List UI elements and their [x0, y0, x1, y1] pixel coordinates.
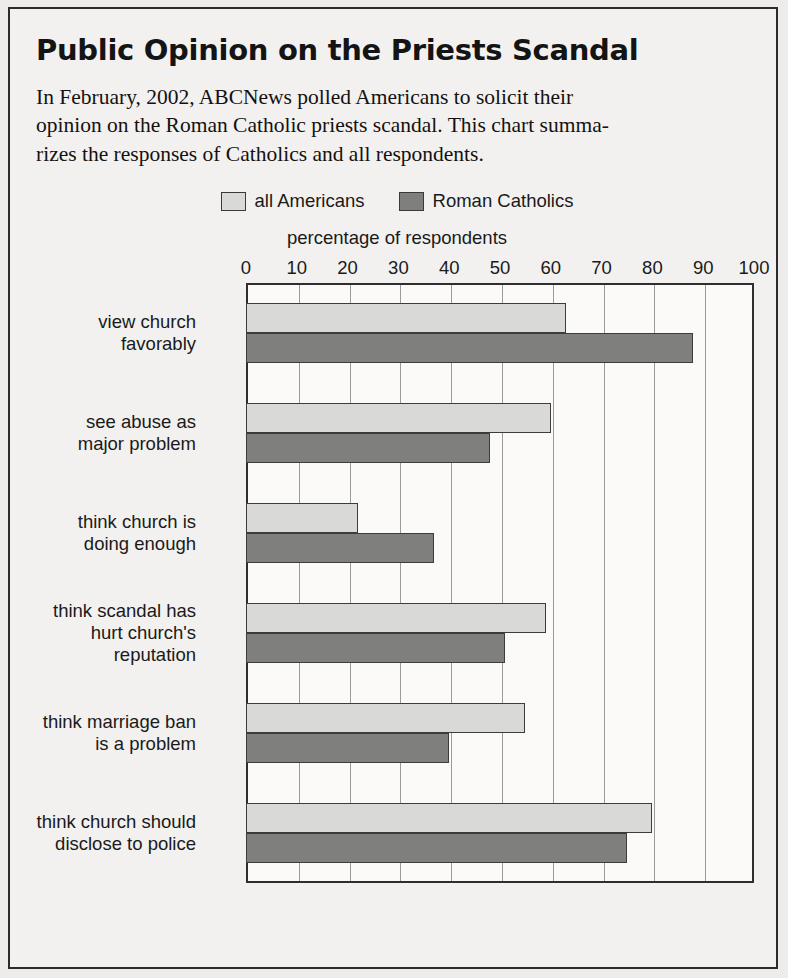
x-tick-0: 0 — [241, 257, 251, 279]
bar-pair — [246, 303, 754, 363]
bar-pair — [246, 403, 754, 463]
category-label-line: hurt church's — [0, 622, 196, 644]
bar-roman-catholics[interactable] — [246, 333, 693, 363]
legend-swatch-roman-catholics — [399, 192, 424, 211]
legend-label-roman-catholics: Roman Catholics — [433, 190, 574, 212]
x-tick-60: 60 — [541, 257, 562, 279]
bar-all-americans[interactable] — [246, 503, 358, 533]
x-tick-90: 90 — [693, 257, 714, 279]
category-label-line: view church — [0, 311, 196, 333]
bar-pair — [246, 703, 754, 763]
bar-group: think church shoulddisclose to police — [32, 803, 762, 863]
x-axis-ticks: 0102030405060708090100 — [246, 257, 754, 281]
page-title: Public Opinion on the Priests Scandal — [36, 33, 762, 67]
bar-all-americans[interactable] — [246, 603, 546, 633]
category-label-line: major problem — [0, 433, 196, 455]
x-axis-label: percentage of respondents — [32, 227, 762, 249]
category-label: think church isdoing enough — [0, 511, 196, 555]
bar-roman-catholics[interactable] — [246, 433, 490, 463]
bar-group: see abuse asmajor problem — [32, 403, 762, 463]
x-tick-20: 20 — [337, 257, 358, 279]
category-label-line: favorably — [0, 333, 196, 355]
description-line-3: rizes the responses of Catholics and all… — [36, 140, 736, 168]
bar-rows: view churchfavorablysee abuse asmajor pr… — [32, 283, 762, 883]
legend-label-all-americans: all Americans — [255, 190, 365, 212]
poster-frame: Public Opinion on the Priests Scandal In… — [8, 7, 778, 969]
x-tick-30: 30 — [388, 257, 409, 279]
x-tick-70: 70 — [591, 257, 612, 279]
bar-chart: 0102030405060708090100 view churchfavora… — [32, 257, 762, 897]
bar-pair — [246, 503, 754, 563]
category-label-line: think scandal has — [0, 600, 196, 622]
category-label-line: think church is — [0, 511, 196, 533]
description-paragraph: In February, 2002, ABCNews polled Americ… — [36, 83, 736, 168]
x-tick-10: 10 — [287, 257, 308, 279]
poster-inner: Public Opinion on the Priests Scandal In… — [32, 23, 762, 957]
bar-all-americans[interactable] — [246, 403, 551, 433]
bar-roman-catholics[interactable] — [246, 633, 505, 663]
description-line-1: In February, 2002, ABCNews polled Americ… — [36, 83, 736, 111]
x-tick-80: 80 — [642, 257, 663, 279]
bar-all-americans[interactable] — [246, 703, 525, 733]
chart-legend: all Americans Roman Catholics — [32, 190, 762, 212]
bar-roman-catholics[interactable] — [246, 533, 434, 563]
category-label-line: doing enough — [0, 533, 196, 555]
bar-all-americans[interactable] — [246, 303, 566, 333]
bar-roman-catholics[interactable] — [246, 833, 627, 863]
legend-item-roman-catholics: Roman Catholics — [399, 190, 574, 212]
category-label-line: see abuse as — [0, 411, 196, 433]
x-tick-100: 100 — [739, 257, 770, 279]
bar-pair — [246, 603, 754, 663]
bar-group: think church isdoing enough — [32, 503, 762, 563]
category-label: think church shoulddisclose to police — [0, 811, 196, 855]
legend-swatch-all-americans — [221, 192, 246, 211]
legend-item-all-americans: all Americans — [221, 190, 365, 212]
description-line-2: opinion on the Roman Catholic priests sc… — [36, 111, 736, 139]
category-label-line: think church should — [0, 811, 196, 833]
category-label: view churchfavorably — [0, 311, 196, 355]
x-tick-50: 50 — [490, 257, 511, 279]
category-label-line: think marriage ban — [0, 711, 196, 733]
category-label-line: reputation — [0, 644, 196, 666]
bar-group: think marriage banis a problem — [32, 703, 762, 763]
x-tick-40: 40 — [439, 257, 460, 279]
bar-all-americans[interactable] — [246, 803, 652, 833]
category-label-line: disclose to police — [0, 833, 196, 855]
category-label: think marriage banis a problem — [0, 711, 196, 755]
category-label: see abuse asmajor problem — [0, 411, 196, 455]
category-label: think scandal hashurt church'sreputation — [0, 600, 196, 665]
bar-pair — [246, 803, 754, 863]
category-label-line: is a problem — [0, 733, 196, 755]
bar-roman-catholics[interactable] — [246, 733, 449, 763]
bar-group: think scandal hashurt church'sreputation — [32, 603, 762, 663]
bar-group: view churchfavorably — [32, 303, 762, 363]
